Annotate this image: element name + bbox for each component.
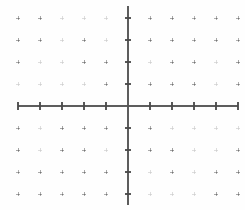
grid-dot-center xyxy=(172,84,173,85)
grid-dot-center xyxy=(106,84,107,85)
grid-dot-center xyxy=(216,40,217,41)
grid-dot-center xyxy=(18,150,19,151)
grid-dot-center xyxy=(172,150,173,151)
grid-dot-center xyxy=(194,40,195,41)
grid-dot-center xyxy=(238,194,239,195)
grid-dot-center xyxy=(62,150,63,151)
grid-dot-center xyxy=(238,40,239,41)
grid-dot-center xyxy=(84,62,85,63)
grid-dot-center xyxy=(106,194,107,195)
grid-dot-center xyxy=(194,62,195,63)
grid-canvas xyxy=(0,0,245,210)
grid-dot-center xyxy=(172,62,173,63)
coordinate-grid-figure xyxy=(0,0,245,210)
grid-dot-center xyxy=(238,172,239,173)
figure-background xyxy=(0,0,245,210)
grid-dot-center xyxy=(238,84,239,85)
grid-dot-center xyxy=(40,172,41,173)
grid-dot-center xyxy=(62,194,63,195)
grid-dot-center xyxy=(18,172,19,173)
grid-dot-center xyxy=(194,18,195,19)
grid-dot-center xyxy=(216,18,217,19)
grid-dot-center xyxy=(216,172,217,173)
grid-dot-center xyxy=(150,128,151,129)
grid-dot-center xyxy=(172,18,173,19)
grid-dot-center xyxy=(172,172,173,173)
grid-dot-center xyxy=(84,128,85,129)
grid-dot-center xyxy=(106,172,107,173)
grid-dot-center xyxy=(18,40,19,41)
grid-dot-center xyxy=(84,194,85,195)
grid-dot-center xyxy=(150,18,151,19)
grid-dot-center xyxy=(194,84,195,85)
grid-dot-center xyxy=(106,62,107,63)
grid-dot-center xyxy=(238,62,239,63)
grid-dot-center xyxy=(40,40,41,41)
grid-dot-center xyxy=(150,84,151,85)
grid-dot-center xyxy=(84,40,85,41)
grid-dot-center xyxy=(18,18,19,19)
grid-dot-center xyxy=(150,40,151,41)
grid-dot-center xyxy=(172,40,173,41)
grid-dot-center xyxy=(18,128,19,129)
grid-dot-center xyxy=(150,150,151,151)
grid-dot-center xyxy=(18,62,19,63)
grid-dot-center xyxy=(40,18,41,19)
grid-dot-center xyxy=(84,150,85,151)
grid-dot-center xyxy=(216,194,217,195)
grid-dot-center xyxy=(18,194,19,195)
grid-dot-center xyxy=(62,172,63,173)
grid-dot-center xyxy=(238,18,239,19)
grid-dot-center xyxy=(106,128,107,129)
grid-dot-center xyxy=(238,150,239,151)
grid-dot-center xyxy=(62,128,63,129)
grid-dot-center xyxy=(84,172,85,173)
grid-dot-center xyxy=(40,194,41,195)
